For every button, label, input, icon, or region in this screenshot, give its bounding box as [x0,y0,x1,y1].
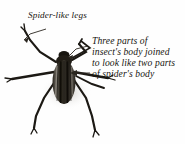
leg-mid-left [12,72,54,79]
body-parts-note: Three parts of insect's body joined to l… [92,36,184,80]
spider-like-legs-label: Spider-like legs [28,10,87,21]
leg-hind-right-tarsus [93,130,99,137]
insect-diagram-figure: Spider-like legs Three parts of insect's… [0,0,185,144]
leg-front-left-tarsus [21,24,25,31]
leg-hind-left-tarsus [31,128,37,134]
leg-front-left [25,31,56,62]
body-note-line-4: of spider's body [92,69,184,80]
leg-mid-left-tarsus [5,78,12,82]
